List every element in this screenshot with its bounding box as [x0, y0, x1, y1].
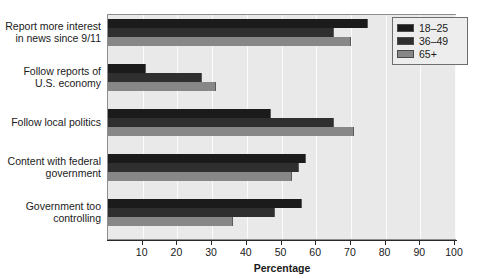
bar — [108, 172, 292, 181]
bar — [108, 118, 334, 127]
bar — [108, 163, 299, 172]
bar — [108, 109, 271, 118]
bar-group — [108, 153, 455, 183]
category-label-line: Report more interest — [0, 20, 101, 32]
x-axis-tick — [315, 240, 316, 245]
x-axis-tick — [454, 240, 455, 245]
legend-item: 36–49 — [397, 34, 463, 47]
category-label: Content with federalgovernment — [0, 155, 101, 179]
bar — [108, 217, 233, 226]
category-label-line: government — [0, 167, 101, 179]
legend-swatch-icon — [397, 50, 414, 58]
category-label-line: Government too — [0, 200, 101, 212]
bar — [108, 82, 216, 91]
x-axis-line — [107, 240, 457, 241]
bar — [108, 154, 306, 163]
legend-item: 65+ — [397, 47, 463, 60]
x-axis-tick — [176, 240, 177, 245]
bar — [108, 73, 202, 82]
category-label-line: Follow reports of — [0, 65, 101, 77]
x-axis-tick-label: 100 — [434, 246, 474, 258]
bar — [108, 28, 334, 37]
legend-item: 18–25 — [397, 21, 463, 34]
bar-chart: Report more interestin news since 9/11Fo… — [0, 0, 478, 279]
x-axis-tick — [281, 240, 282, 245]
x-axis-title: Percentage — [107, 262, 457, 274]
x-axis-tick — [142, 240, 143, 245]
category-label: Follow reports ofU.S. economy — [0, 65, 101, 89]
x-axis-tick — [246, 240, 247, 245]
legend-item-label: 18–25 — [419, 22, 448, 34]
bar — [108, 127, 354, 136]
x-axis-tick — [419, 240, 420, 245]
category-label-line: in news since 9/11 — [0, 32, 101, 44]
legend: 18–2536–4965+ — [392, 17, 468, 65]
category-label: Follow local politics — [0, 116, 101, 128]
category-label-line: U.S. economy — [0, 77, 101, 89]
category-axis-labels: Report more interestin news since 9/11Fo… — [0, 14, 101, 240]
bar — [108, 64, 146, 73]
bar — [108, 208, 275, 217]
bar — [108, 199, 302, 208]
x-axis-tick — [211, 240, 212, 245]
category-label-line: Follow local politics — [0, 116, 101, 128]
bar-group — [108, 198, 455, 228]
bar-group — [108, 63, 455, 93]
x-axis-tick — [385, 240, 386, 245]
bar-group — [108, 108, 455, 138]
category-label: Report more interestin news since 9/11 — [0, 20, 101, 44]
x-axis-tick — [350, 240, 351, 245]
legend-item-label: 65+ — [419, 48, 437, 60]
legend-swatch-icon — [397, 24, 414, 32]
category-label: Government toocontrolling — [0, 200, 101, 224]
category-label-line: controlling — [0, 212, 101, 224]
legend-item-label: 36–49 — [419, 35, 448, 47]
category-label-line: Content with federal — [0, 155, 101, 167]
bar — [108, 37, 351, 46]
bar — [108, 19, 368, 28]
legend-swatch-icon — [397, 37, 414, 45]
